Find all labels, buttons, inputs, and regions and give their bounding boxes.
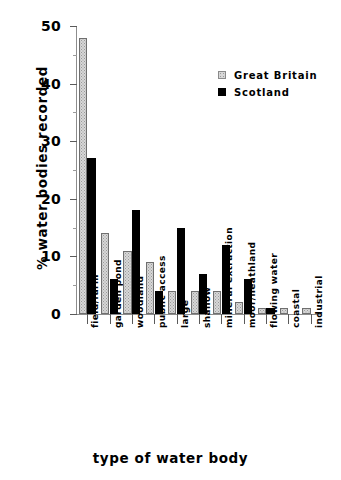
- bar-great-britain-industrial: [302, 308, 310, 314]
- x-axis-tick: [266, 314, 267, 324]
- x-axis-tick: [110, 314, 111, 324]
- x-axis-tick-label: garden pond: [114, 259, 123, 328]
- y-axis-tick-label: 10: [41, 248, 61, 264]
- bar-great-britain-moor-heathland: [235, 302, 243, 314]
- x-axis-tick-label: coastal: [292, 289, 301, 328]
- x-axis-tick: [288, 314, 289, 324]
- bar-great-britain-large: [168, 291, 176, 314]
- bar-great-britain-flowing-water: [258, 308, 266, 314]
- y-axis-tick-label: 30: [41, 133, 61, 149]
- y-axis-minor-tick: [73, 170, 77, 171]
- bar-great-britain-field-farm: [79, 38, 87, 314]
- x-axis-tick: [221, 314, 222, 324]
- y-axis-tick: 40: [70, 84, 77, 85]
- x-axis-tick-label: public access: [158, 255, 167, 328]
- y-axis-tick: 20: [70, 199, 77, 200]
- y-axis-minor-tick: [73, 228, 77, 229]
- x-axis-tick-label: flowing water: [270, 253, 279, 328]
- x-axis-tick-label: mineral extraction: [225, 227, 234, 328]
- y-axis-minor-tick: [73, 285, 77, 286]
- y-axis-tick-label: 20: [41, 191, 61, 207]
- legend-item-scotland: Scotland: [218, 85, 317, 99]
- x-axis-tick: [154, 314, 155, 324]
- x-axis-tick: [87, 314, 88, 324]
- x-axis-tick: [199, 314, 200, 324]
- bar-chart-figure: % water bodies recorded 01020304050field…: [0, 0, 341, 480]
- bar-great-britain-coastal: [280, 308, 288, 314]
- x-axis-tick-label: shallow: [203, 287, 212, 328]
- y-axis-tick: 0: [70, 314, 77, 315]
- x-axis-tick: [132, 314, 133, 324]
- y-axis-tick-label: 40: [41, 76, 61, 92]
- legend-label-great-britain: Great Britain: [234, 70, 317, 81]
- x-axis-title: type of water body: [0, 450, 341, 466]
- y-axis-tick: 30: [70, 141, 77, 142]
- x-axis-tick-label: moor/heathland: [248, 242, 257, 328]
- gb-swatch-icon: [218, 71, 226, 79]
- y-axis-minor-tick: [73, 112, 77, 113]
- bar-great-britain-public-access: [146, 262, 154, 314]
- x-axis-tick: [244, 314, 245, 324]
- bar-great-britain-garden-pond: [101, 233, 109, 314]
- x-axis-tick: [311, 314, 312, 324]
- bar-great-britain-shallow: [191, 291, 199, 314]
- y-axis-tick: 10: [70, 256, 77, 257]
- x-axis-tick-label: field/farm: [91, 274, 100, 328]
- chart-legend: Great Britain Scotland: [218, 68, 317, 102]
- legend-item-great-britain: Great Britain: [218, 68, 317, 82]
- x-axis-tick-label: industrial: [315, 275, 324, 328]
- sc-swatch-icon: [218, 88, 226, 96]
- legend-label-scotland: Scotland: [234, 87, 290, 98]
- y-axis-tick: 50: [70, 26, 77, 27]
- y-axis-minor-tick: [73, 55, 77, 56]
- bar-great-britain-woodland: [123, 251, 131, 314]
- bar-great-britain-mineral-extraction: [213, 291, 221, 314]
- y-axis-tick-label: 0: [51, 306, 61, 322]
- x-axis-tick-label: large: [181, 300, 190, 328]
- x-axis-tick-label: woodland: [136, 276, 145, 328]
- y-axis-tick-label: 50: [41, 18, 61, 34]
- x-axis-tick: [177, 314, 178, 324]
